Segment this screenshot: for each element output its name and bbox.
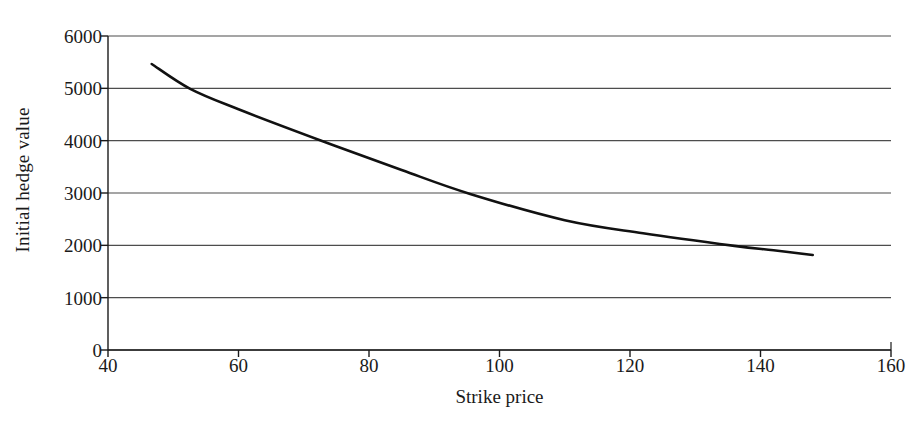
- axis-ticks: [101, 36, 891, 357]
- gridlines: [108, 36, 891, 350]
- chart-figure: Initial hedge value 01000200030004000500…: [0, 0, 922, 426]
- series-line-0: [152, 64, 813, 255]
- data-series: [152, 64, 813, 255]
- plot-area: [0, 0, 922, 426]
